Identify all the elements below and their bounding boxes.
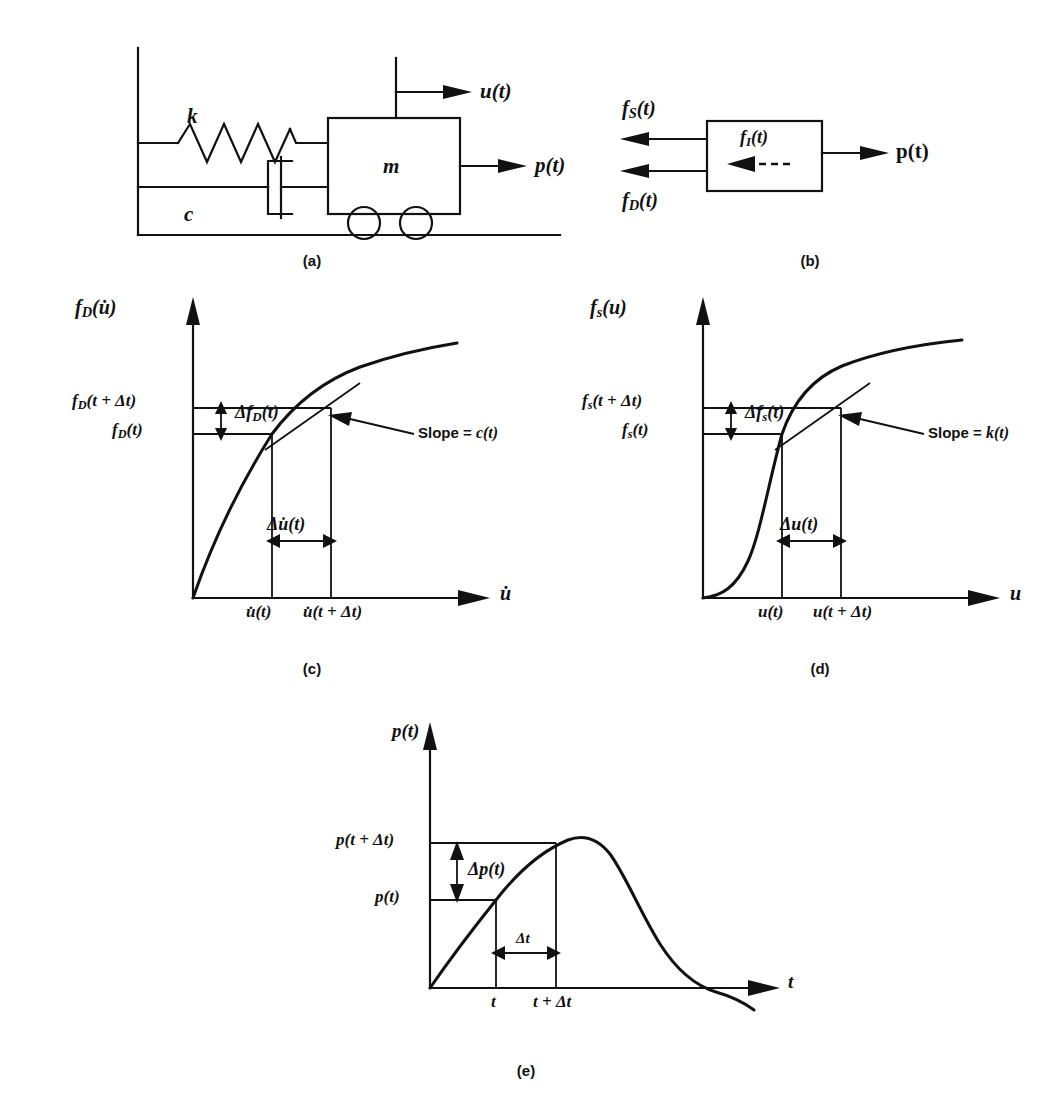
panel-b-drawing — [600, 90, 980, 250]
delta-time-label-e: Δt — [516, 931, 530, 946]
x-lower-tick-label-e: t — [491, 993, 496, 1010]
y-upper-tick-label-e: p(t + Δt) — [336, 831, 394, 848]
damper-coefficient-label: c — [184, 204, 193, 225]
delta-force-arrow-d — [725, 401, 737, 441]
panel-a-drawing — [100, 30, 570, 260]
x-axis-label-c: u̇ — [500, 583, 511, 603]
x-upper-tick-label-e: t + Δt — [533, 993, 571, 1010]
panel-caption-d: (d) — [790, 660, 850, 677]
applied-force-label: p(t) — [535, 155, 565, 176]
x-lower-tick-label-c: u̇(t) — [246, 603, 272, 620]
panel-d-spring-plot: fs(u) u fs(t + Δt) fs(t) u(t) u(t + Δt) … — [570, 295, 1050, 625]
panel-a-sdof-system: k c m u(t) p(t) — [100, 30, 570, 260]
panel-caption-b: (b) — [780, 252, 840, 269]
y-axis-c — [186, 297, 200, 598]
slope-label-d: Slope = k(t) — [928, 424, 1009, 442]
y-axis-e — [423, 722, 437, 988]
panel-c-damping-plot: fD(u̇) u̇ fD(t + Δt) fD(t) u̇(t) u̇(t + … — [60, 295, 540, 625]
mass-label: m — [383, 156, 399, 177]
x-axis-label-e: t — [788, 972, 793, 991]
damping-force-arrow — [620, 164, 707, 178]
damping-force-curve — [193, 343, 457, 598]
y-upper-tick-label-d: fs(t + Δt) — [582, 392, 642, 411]
delta-displacement-label-d: Δu(t) — [780, 515, 818, 533]
x-upper-tick-label-d: u(t + Δt) — [813, 603, 872, 620]
panel-caption-e: (e) — [496, 1062, 556, 1079]
spring-force-arrow — [620, 132, 707, 146]
inertia-force-arrow — [727, 156, 790, 172]
delta-load-label-e: Δp(t) — [468, 860, 505, 878]
y-lower-tick-label-e: p(t) — [375, 888, 400, 905]
slope-leader-d — [838, 412, 924, 434]
y-axis-label-d: fs(u) — [590, 297, 627, 320]
spring-force-curve — [703, 340, 962, 598]
delta-force-arrow-c — [215, 401, 227, 441]
y-axis-label-c: fD(u̇) — [75, 297, 117, 320]
displacement-arrow — [396, 85, 472, 99]
y-lower-tick-label-d: fs(t) — [622, 421, 648, 440]
delta-force-label-d: Δfs(t) — [745, 403, 784, 424]
panel-caption-a: (a) — [282, 252, 342, 269]
inertia-force-label: fI(t) — [740, 128, 768, 149]
spring-element — [138, 124, 328, 162]
panel-c-drawing — [60, 295, 540, 625]
spring-stiffness-label: k — [187, 106, 198, 127]
panel-e-drawing — [330, 700, 810, 1040]
spring-force-label: fS(t) — [622, 98, 656, 121]
delta-time-arrow-e — [491, 946, 561, 960]
delta-load-arrow-e — [450, 841, 464, 903]
applied-force-label-b: p(t) — [896, 141, 929, 162]
applied-force-arrow-b — [822, 146, 889, 160]
panel-e-load-history-plot: p(t) t p(t + Δt) p(t) t t + Δt Δp(t) Δt — [330, 700, 810, 1040]
x-lower-tick-label-d: u(t) — [758, 603, 784, 620]
x-upper-tick-label-c: u̇(t + Δt) — [303, 603, 362, 620]
y-axis-d — [696, 297, 710, 598]
displacement-label: u(t) — [480, 81, 512, 102]
damping-force-label: fD(t) — [622, 190, 658, 213]
y-lower-tick-label-c: fD(t) — [112, 421, 143, 440]
y-axis-label-e: p(t) — [392, 721, 419, 740]
figure-root: k c m u(t) p(t) (a) — [0, 0, 1057, 1116]
y-upper-tick-label-c: fD(t + Δt) — [72, 392, 136, 411]
panel-d-drawing — [570, 295, 1050, 625]
slope-label-c: Slope = c(t) — [418, 424, 498, 442]
delta-velocity-label-c: Δu̇(t) — [267, 515, 305, 533]
panel-caption-c: (c) — [282, 660, 342, 677]
delta-velocity-arrow-c — [266, 534, 337, 548]
applied-force-arrow — [460, 159, 527, 173]
x-axis-e — [430, 980, 780, 996]
slope-leader-c — [328, 412, 414, 434]
dashpot-element — [138, 157, 328, 218]
delta-displacement-arrow-d — [776, 534, 847, 548]
x-axis-label-d: u — [1010, 583, 1021, 603]
panel-b-free-body-diagram: fS(t) fD(t) fI(t) p(t) — [600, 90, 980, 250]
delta-force-label-c: ΔfD(t) — [235, 403, 279, 424]
